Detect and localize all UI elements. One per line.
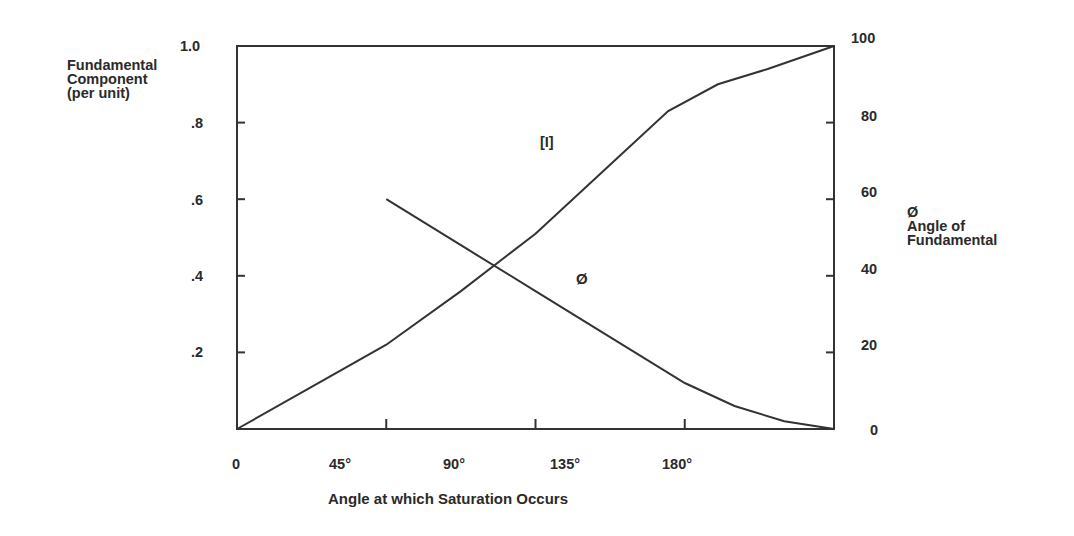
y-right-label-line-1: Ø: [907, 205, 997, 219]
curve-fundamental-magnitude: [237, 46, 834, 429]
y-right-tick-label: 80: [861, 108, 877, 124]
y-left-tick-label: .2: [191, 344, 203, 360]
curve-label-phi: Ø: [576, 272, 588, 286]
y-right-axis-label: Ø Angle of Fundamental: [907, 205, 997, 247]
y-right-tick-label: 100: [851, 30, 875, 46]
y-left-axis-label: Fundamental Component (per unit): [67, 58, 157, 100]
x-tick-label: 90°: [443, 456, 465, 472]
y-right-tick-label: 60: [861, 184, 877, 200]
x-tick-label: 180°: [662, 456, 692, 472]
y-left-tick-label: 1.0: [180, 38, 200, 54]
y-left-label-line-1: Fundamental: [67, 58, 157, 72]
y-right-tick-label: 0: [870, 422, 878, 438]
y-left-label-line-2: Component: [67, 72, 157, 86]
y-right-label-line-3: Fundamental: [907, 233, 997, 247]
y-left-tick-label: .4: [191, 268, 203, 284]
chart-plot-area: [0, 0, 1074, 536]
y-left-tick-label: .6: [191, 192, 203, 208]
x-tick-label: 135°: [550, 456, 580, 472]
plot-frame: [237, 46, 834, 429]
y-left-label-line-3: (per unit): [67, 86, 157, 100]
x-tick-label: 0: [232, 456, 240, 472]
x-axis-label: Angle at which Saturation Occurs: [328, 492, 568, 506]
axis-ticks: [237, 123, 834, 429]
y-left-tick-label: .8: [191, 115, 203, 131]
y-right-tick-label: 20: [861, 337, 877, 353]
y-right-tick-label: 40: [861, 261, 877, 277]
curve-fundamental-angle: [386, 199, 834, 429]
x-tick-label: 45°: [329, 456, 351, 472]
y-right-label-line-2: Angle of: [907, 219, 997, 233]
curve-label-i: [I]: [540, 135, 554, 149]
